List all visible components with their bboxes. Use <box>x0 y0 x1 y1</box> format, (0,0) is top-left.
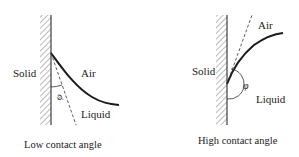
liquid-air-interface-curve <box>227 33 283 84</box>
high-contact-angle-panel: φ Solid Air Liquid High contact angle <box>192 15 286 146</box>
tangent-dashed-line <box>51 53 76 125</box>
air-label: Air <box>258 19 273 31</box>
angle-phi-label: φ <box>52 92 64 101</box>
liquid-label: Liquid <box>81 108 111 120</box>
angle-arc <box>227 69 244 99</box>
liquid-label: Liquid <box>256 93 286 105</box>
caption-high-contact-angle: High contact angle <box>198 135 278 146</box>
low-contact-angle-panel: φ Solid Air Liquid Low contact angle <box>13 15 119 150</box>
contact-angle-diagram: φ Solid Air Liquid Low contact angle φ S… <box>0 0 299 157</box>
angle-arc <box>51 85 62 87</box>
angle-phi-label: φ <box>243 80 249 91</box>
solid-label: Solid <box>192 65 216 77</box>
air-label: Air <box>81 67 96 79</box>
solid-wall-hatching <box>40 15 51 125</box>
solid-label: Solid <box>13 67 37 79</box>
solid-wall-hatching <box>216 15 227 125</box>
caption-low-contact-angle: Low contact angle <box>24 139 102 150</box>
